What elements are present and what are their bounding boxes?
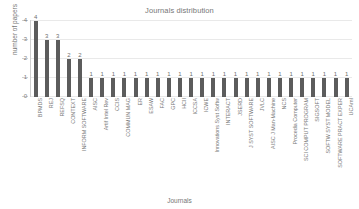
y-axis-title: number of papers [11,0,18,66]
bar-value-label: 1 [278,71,281,77]
x-label-slot: Artif Intel Rev [97,98,108,184]
bar-slot: 1 [197,20,208,97]
bar-value-label: 3 [56,33,59,39]
x-label-slot: GPC [163,98,174,184]
bar-slot: 4 [30,20,41,97]
bar-slot: 1 [108,20,119,97]
y-axis-tick-label: 0 [24,93,27,99]
bar-value-label: 2 [67,52,70,58]
bar [334,78,338,97]
x-label-slot: ESAW [141,98,152,184]
bar-slot: 1 [263,20,274,97]
bar-slot: 1 [274,20,285,97]
x-label-slot: AISC J Man-Machine [263,98,274,184]
bar [111,78,115,97]
bar [345,78,349,97]
y-axis-tick-label: 2 [24,55,27,61]
x-label-slot: Innovations Syst Softw [208,98,219,184]
bar [89,78,93,97]
bar-slot: 1 [330,20,341,97]
x-label-slot: COMMUN MAG [119,98,130,184]
bar-value-label: 1 [201,71,204,77]
journals-distribution-chart: Journals distribution number of papers 0… [0,0,359,209]
y-axis-tick-label: 3 [24,36,27,42]
bar [289,78,293,97]
bar-slot: 1 [174,20,185,97]
bar-value-label: 1 [178,71,181,77]
bar-slot: 1 [219,20,230,97]
bar-slot: 2 [74,20,85,97]
bar-value-label: 1 [89,71,92,77]
x-label-slot: NCS [274,98,285,184]
bar-value-label: 1 [334,71,337,77]
bar-value-label: 1 [167,71,170,77]
x-axis-title: Journals [0,197,359,204]
x-label-slot: REFSQ [52,98,63,184]
bar-value-label: 1 [301,71,304,77]
x-label-slot: Procedia Computer [286,98,297,184]
bar-value-label: 3 [45,33,48,39]
bar-slot: 1 [230,20,241,97]
bar [45,40,49,97]
x-label-slot: J SYST SOFTWARE [241,98,252,184]
bar-slot: 1 [308,20,319,97]
bar [278,78,282,97]
bar-slot: 2 [63,20,74,97]
bar-slot: 1 [208,20,219,97]
bar [234,78,238,97]
bar-slot: 1 [86,20,97,97]
bar-series: 43322111111111111111111111111 [30,20,352,97]
x-label-slot: INFORM SOFTWARE [74,98,85,184]
bar-value-label: 2 [78,52,81,58]
bar-value-label: 1 [156,71,159,77]
bar-slot: 1 [130,20,141,97]
x-label-slot: SCI COMPUT PROGRAM [297,98,308,184]
bar [267,78,271,97]
y-axis-tick-label: 1 [24,74,27,80]
bar-value-label: 1 [245,71,248,77]
bar [311,78,315,97]
bar-slot: 1 [286,20,297,97]
bar-slot: 1 [186,20,197,97]
bar-value-label: 4 [34,14,37,20]
x-label-slot: SOFTWARE PRACT EXPER [330,98,341,184]
bar-value-label: 1 [267,71,270,77]
bar [200,78,204,97]
bar-value-label: 1 [123,71,126,77]
bar-slot: 1 [252,20,263,97]
bar [178,78,182,97]
bar [322,78,326,97]
bar-value-label: 1 [112,71,115,77]
bar [300,78,304,97]
x-axis-tick-labels: BPMDSREJREFSQCONTEXTINFORM SOFTWAREAISCA… [30,98,352,184]
bar-slot: 1 [241,20,252,97]
bar-value-label: 1 [289,71,292,77]
x-label-slot: JSERD [230,98,241,184]
x-label-slot: UCAmI [341,98,352,184]
bar [78,59,82,97]
x-axis-tick-label: UCAmI [349,98,354,115]
x-label-slot: SOFTW SYST MODEL [319,98,330,184]
x-label-slot: SIGSOFT [308,98,319,184]
bar-slot: 1 [319,20,330,97]
bar-slot: 1 [297,20,308,97]
bar-slot: 1 [97,20,108,97]
bar [167,78,171,97]
x-label-slot: REJ [41,98,52,184]
bar-value-label: 1 [323,71,326,77]
bar [145,78,149,97]
bar-value-label: 1 [101,71,104,77]
bar-value-label: 1 [223,71,226,77]
bar-value-label: 1 [312,71,315,77]
x-label-slot: INTERACT [219,98,230,184]
bar-value-label: 1 [134,71,137,77]
bar-value-label: 1 [256,71,259,77]
bar [156,78,160,97]
bar [134,78,138,97]
bar-slot: 3 [41,20,52,97]
bar-slot: 1 [152,20,163,97]
bar [245,78,249,97]
bar [100,78,104,97]
bar [211,78,215,97]
bar-slot: 3 [52,20,63,97]
